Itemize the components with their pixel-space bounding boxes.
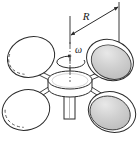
sphere-lower-left (0, 84, 55, 136)
dimension-arrow (71, 7, 118, 35)
radius-label: R (82, 10, 90, 22)
figure-canvas: R (0, 0, 137, 144)
sphere-lower-right (83, 86, 137, 139)
physics-figure: R (0, 0, 137, 144)
rotation-direction-arrow (57, 56, 85, 68)
angular-velocity-label: ω (75, 44, 82, 55)
